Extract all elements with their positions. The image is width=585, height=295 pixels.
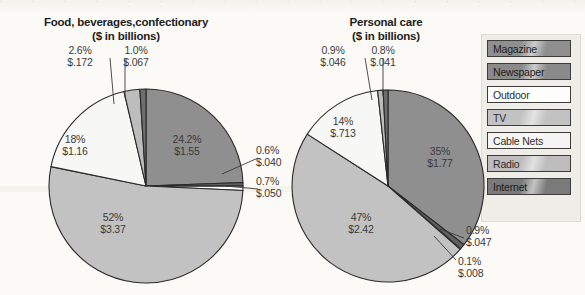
legend-item-label: Radio — [493, 158, 519, 170]
callout-right-internet: 0.8% $.041 — [355, 45, 411, 68]
pie-left-svg — [22, 86, 272, 286]
pie-right-label-cable: 14% $.713 — [310, 116, 376, 139]
callout-right-internet-val: $.041 — [355, 57, 411, 69]
callout-left-radio-pct: 2.6% — [52, 45, 108, 57]
callout-right-newspaper-pct: 0.9% — [466, 225, 528, 237]
pie-right-label-tv: 47% $2.42 — [326, 212, 396, 235]
scan-artifact-ghost-text: . . . . . . . . . . . . . . . . . . . . … — [0, 0, 585, 8]
pie-left-label-magazine: 24.2% $1.55 — [150, 134, 224, 157]
pie-right-label-tv-val: $2.42 — [326, 224, 396, 236]
pie-left-label-magazine-pct: 24.2% — [150, 134, 224, 146]
pie-left-label-tv: 52% $3.37 — [77, 212, 149, 235]
callout-right-newspaper-val: $.047 — [466, 237, 528, 249]
legend-item-cable-nets[interactable]: Cable Nets — [487, 132, 571, 149]
callout-left-radio-val: $.172 — [52, 57, 108, 69]
legend-item-tv[interactable]: TV — [487, 109, 571, 126]
callout-right-radio-val: $.046 — [305, 57, 361, 69]
pie-left-label-tv-pct: 52% — [77, 212, 149, 224]
legend-item-radio[interactable]: Radio — [487, 155, 571, 172]
callout-right-outdoor-pct: 0.1% — [458, 256, 520, 268]
pie-right-label-cable-val: $.713 — [310, 128, 376, 140]
chart-title-right-line2: ($ in billions) — [296, 30, 476, 44]
chart-title-left-line2: ($ in billions) — [6, 30, 246, 44]
callout-right-radio-pct: 0.9% — [305, 45, 361, 57]
pie-right-label-tv-pct: 47% — [326, 212, 396, 224]
callout-right-internet-pct: 0.8% — [355, 45, 411, 57]
callout-right-newspaper: 0.9% $.047 — [466, 225, 528, 248]
pie-left-label-cable-pct: 18% — [42, 134, 108, 146]
pie-chart-left: 24.2% $1.55 52% $3.37 18% $1.16 — [22, 86, 272, 286]
callout-right-outdoor: 0.1% $.008 — [458, 256, 520, 279]
pie-right-label-magazine-val: $1.77 — [406, 158, 474, 170]
legend-item-label: Magazine — [493, 43, 537, 55]
chart-title-left: Food, beverages,confectionary ($ in bill… — [6, 16, 246, 43]
chart-title-right-line1: Personal care — [296, 16, 476, 30]
callout-right-outdoor-val: $.008 — [458, 268, 520, 280]
chart-title-right: Personal care ($ in billions) — [296, 16, 476, 43]
pie-right-label-magazine: 35% $1.77 — [406, 146, 474, 169]
legend-item-internet[interactable]: Internet — [487, 178, 571, 195]
legend-item-magazine[interactable]: Magazine — [487, 40, 571, 57]
callout-right-radio: 0.9% $.046 — [305, 45, 361, 68]
pie-left-label-cable-val: $1.16 — [42, 146, 108, 158]
pie-left-slice-group — [49, 89, 243, 283]
legend-item-label: Outdoor — [493, 89, 530, 101]
legend-item-label: Internet — [493, 181, 527, 193]
legend-item-outdoor[interactable]: Outdoor — [487, 86, 571, 103]
callout-left-internet: 1.0% $.067 — [108, 45, 164, 68]
pie-left-label-magazine-val: $1.55 — [150, 146, 224, 158]
pie-right-label-magazine-pct: 35% — [406, 146, 474, 158]
chart-title-left-line1: Food, beverages,confectionary — [6, 16, 246, 30]
legend-item-label: TV — [493, 112, 506, 124]
callout-left-internet-val: $.067 — [108, 57, 164, 69]
pie-right-label-cable-pct: 14% — [310, 116, 376, 128]
pie-left-label-cable: 18% $1.16 — [42, 134, 108, 157]
callout-left-internet-pct: 1.0% — [108, 45, 164, 57]
legend-item-label: Newspaper — [493, 66, 544, 78]
legend: MagazineNewspaperOutdoorTVCable NetsRadi… — [487, 40, 571, 201]
callout-left-radio: 2.6% $.172 — [52, 45, 108, 68]
legend-item-label: Cable Nets — [493, 135, 543, 147]
legend-item-newspaper[interactable]: Newspaper — [487, 63, 571, 80]
pie-left-label-tv-val: $3.37 — [77, 224, 149, 236]
